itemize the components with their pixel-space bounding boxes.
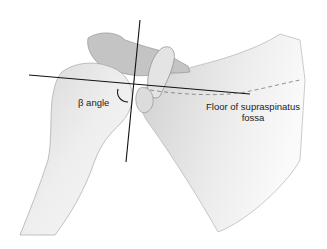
beta-angle-diagram: β angle Floor of supraspinatus fossa xyxy=(0,0,327,249)
anatomy-illustration xyxy=(0,0,327,249)
supraspinatus-fossa-label: Floor of supraspinatus fossa xyxy=(206,101,300,123)
humerus xyxy=(20,63,132,235)
supraspinatus-fossa-label-line2: fossa xyxy=(206,112,300,123)
glenoid xyxy=(136,87,153,113)
beta-angle-label: β angle xyxy=(78,97,109,108)
supraspinatus-fossa-label-line1: Floor of supraspinatus xyxy=(206,101,300,112)
